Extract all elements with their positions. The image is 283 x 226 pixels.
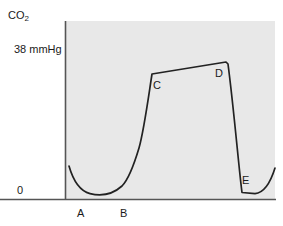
curve-point-e-label: E — [242, 174, 249, 186]
x-axis-tick-a-label: A — [77, 207, 84, 219]
x-axis-tick-b-label: B — [120, 207, 127, 219]
y-axis-zero-label: 0 — [17, 184, 23, 196]
plot-area-background — [66, 21, 275, 199]
capnogram-figure: C D E CO2 38 mmHg 0 A B — [0, 0, 283, 226]
y-axis-title-subscript: 2 — [25, 14, 29, 23]
y-axis-value-label: 38 mmHg — [14, 43, 62, 55]
curve-point-d-label: D — [215, 67, 223, 79]
y-axis-title: CO2 — [8, 9, 29, 23]
capnogram-svg: C D E — [0, 0, 283, 226]
y-axis-title-text: CO — [8, 9, 25, 21]
curve-point-c-label: C — [153, 79, 161, 91]
